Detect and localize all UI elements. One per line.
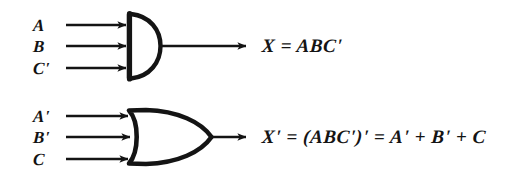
figure-canvas: A B C' X = ABC' A' B' C X' = (ABC')' = A… <box>0 0 518 177</box>
and-gate-group <box>66 14 246 80</box>
or-output-expression: X' = (ABC')' = A' + B' + C <box>261 127 486 146</box>
logic-diagram <box>0 0 518 177</box>
or-input-label-a: A' <box>33 108 50 125</box>
and-output-expression: X = ABC' <box>261 36 343 55</box>
or-input-label-b: B' <box>33 129 50 146</box>
or-input-label-c: C <box>33 151 45 168</box>
and-gate-symbol <box>129 14 161 79</box>
and-input-label-b: B <box>33 38 45 55</box>
and-input-label-a: A <box>33 17 45 34</box>
or-gate-symbol <box>129 110 212 164</box>
and-input-label-c: C' <box>33 60 50 77</box>
or-gate-group <box>66 110 246 164</box>
